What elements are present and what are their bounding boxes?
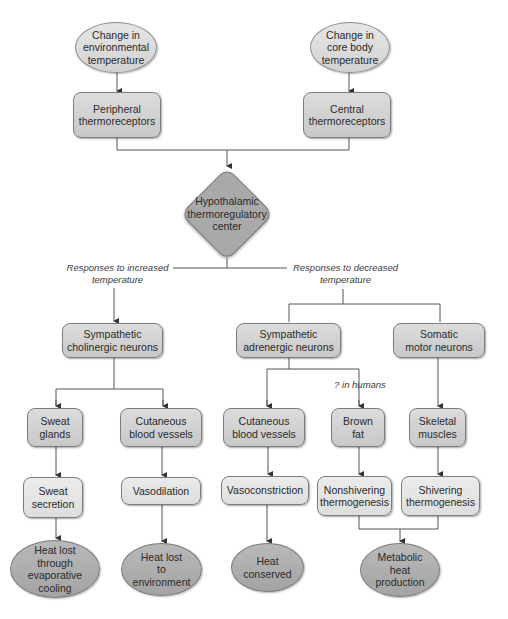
increased-temp-label: Responses to increased temperature bbox=[60, 262, 175, 286]
vasodilation-node: Vasodilation bbox=[121, 477, 201, 505]
core-temp-change-node: Change in core body temperature bbox=[310, 22, 390, 73]
hypothalamic-center-node: Hypothalamic thermoregulatory center bbox=[181, 168, 273, 260]
central-thermoreceptors-node: Central thermoreceptors bbox=[303, 92, 391, 138]
somatic-motor-neurons-node: Somatic motor neurons bbox=[393, 323, 485, 358]
shivering-thermogenesis-node: Shivering thermogenesis bbox=[401, 476, 480, 516]
vasoconstriction-node: Vasoconstriction bbox=[221, 476, 309, 505]
nonshivering-thermogenesis-node: Nonshivering thermogenesis bbox=[317, 476, 392, 516]
heat-lost-environment-node: Heat lost to environment bbox=[121, 543, 202, 596]
heat-conserved-node: Heat conserved bbox=[231, 543, 304, 592]
heat-lost-evaporative-node: Heat lost through evaporative cooling bbox=[10, 540, 100, 598]
sympathetic-adrenergic-neurons-node: Sympathetic adrenergic neurons bbox=[236, 323, 341, 358]
in-humans-label: ? in humans bbox=[330, 379, 390, 391]
metabolic-heat-production-node: Metabolic heat production bbox=[360, 543, 440, 597]
sweat-glands-node: Sweat glands bbox=[27, 408, 83, 447]
skeletal-muscles-node: Skeletal muscles bbox=[409, 408, 466, 447]
peripheral-thermoreceptors-node: Peripheral thermoreceptors bbox=[73, 92, 161, 138]
sympathetic-cholinergic-neurons-node: Sympathetic cholinergic neurons bbox=[62, 323, 163, 358]
cutaneous-vessels-cold-node: Cutaneous blood vessels bbox=[223, 408, 305, 447]
brown-fat-node: Brown fat bbox=[331, 408, 385, 447]
sweat-secretion-node: Sweat secretion bbox=[23, 477, 83, 518]
cutaneous-vessels-warm-node: Cutaneous blood vessels bbox=[120, 408, 202, 447]
hypothalamic-center-label: Hypothalamic thermoregulatory center bbox=[181, 168, 273, 260]
env-temp-change-node: Change in environmental temperature bbox=[75, 22, 157, 73]
decreased-temp-label: Responses to decreased temperature bbox=[288, 262, 403, 286]
